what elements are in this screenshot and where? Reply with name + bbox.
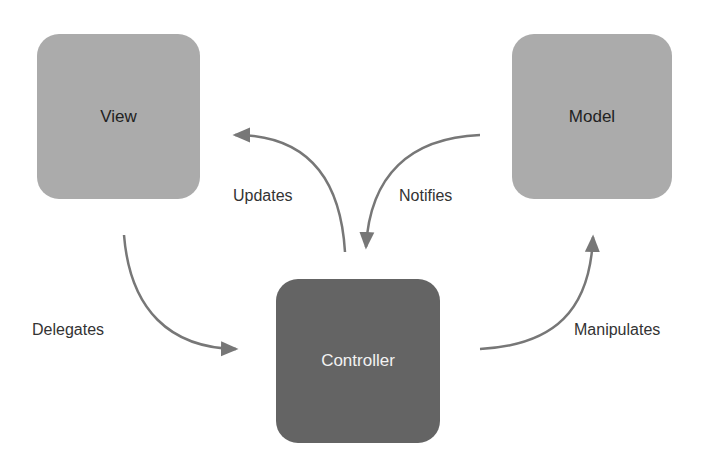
manipulates-label: Manipulates — [574, 321, 660, 339]
updates-label: Updates — [233, 187, 293, 205]
notifies-label: Notifies — [399, 187, 452, 205]
delegates-arrow — [124, 235, 236, 349]
controller-label: Controller — [321, 351, 395, 371]
delegates-label: Delegates — [32, 321, 104, 339]
view-label: View — [100, 107, 137, 127]
view-node: View — [37, 34, 200, 199]
model-label: Model — [569, 107, 615, 127]
controller-node: Controller — [276, 279, 440, 443]
model-node: Model — [512, 34, 672, 199]
